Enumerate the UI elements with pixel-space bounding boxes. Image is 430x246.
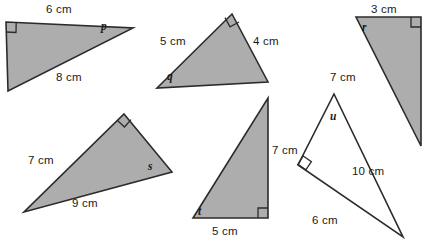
triangle-1-angle-label: p [101, 21, 107, 33]
triangle-3-side-top-label: 3 cm [371, 4, 397, 16]
triangle-6-angle-label: u [330, 111, 336, 123]
triangle-2-angle-label: q [167, 71, 173, 83]
triangle-2-side-left-label: 5 cm [160, 36, 186, 48]
triangle-4-side-left-label: 7 cm [28, 155, 54, 167]
triangle-3-side-left-label: 7 cm [330, 72, 356, 84]
triangle-4-angle-label: s [148, 161, 152, 173]
triangle-2-side-right-label: 4 cm [253, 36, 279, 48]
triangles-figure: 6 cm 8 cm p 5 cm 4 cm q 3 cm 7 cm r 7 cm… [0, 0, 430, 246]
triangle-3-angle-label: r [362, 22, 366, 34]
triangle-6-side-right-label: 10 cm [352, 166, 384, 178]
triangle-2-shape [157, 14, 268, 88]
triangle-1-side-top-label: 6 cm [46, 4, 72, 16]
triangle-3-shape [356, 17, 421, 146]
triangle-5-shape [193, 98, 268, 218]
triangle-5-side-base-label: 5 cm [212, 226, 238, 238]
triangle-1-side-hypotenuse-label: 8 cm [56, 72, 82, 84]
triangle-5-side-right-label: 7 cm [272, 145, 298, 157]
triangle-4-side-base-label: 9 cm [72, 198, 98, 210]
triangles-canvas [0, 0, 430, 246]
triangle-6-side-base-label: 6 cm [312, 215, 338, 227]
triangle-5-angle-label: t [198, 206, 201, 218]
